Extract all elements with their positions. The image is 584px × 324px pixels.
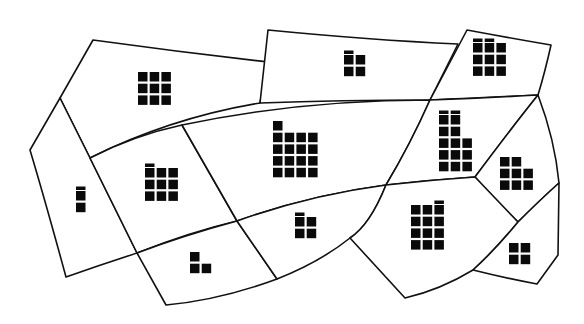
building-block <box>138 84 148 94</box>
building-block <box>295 229 305 239</box>
building-block <box>462 150 472 160</box>
building-block <box>462 162 472 172</box>
building-block <box>296 133 306 143</box>
zone-north-west-block-cluster <box>138 72 171 105</box>
building-block <box>307 229 317 239</box>
building-block <box>496 55 506 64</box>
building-block <box>308 133 318 143</box>
building-block <box>145 168 155 178</box>
building-block <box>434 205 444 215</box>
building-block <box>451 127 461 137</box>
building-block <box>168 168 178 178</box>
block-cap <box>295 213 305 217</box>
block-cap <box>434 201 444 205</box>
building-block <box>512 180 522 190</box>
building-block <box>439 150 449 160</box>
building-block <box>439 138 449 148</box>
building-block <box>512 157 522 167</box>
building-block <box>145 191 155 201</box>
building-block <box>509 255 519 265</box>
building-block <box>344 55 354 65</box>
building-block <box>344 67 354 77</box>
building-block <box>157 180 167 190</box>
block-cap <box>451 111 461 115</box>
building-block <box>161 72 171 82</box>
building-block <box>451 138 461 148</box>
building-block <box>411 217 421 227</box>
building-block <box>500 169 510 179</box>
building-block <box>500 180 510 190</box>
building-block <box>157 191 167 201</box>
zone-diagram <box>0 0 584 324</box>
building-block <box>308 156 318 166</box>
building-block <box>168 180 178 190</box>
building-block <box>439 115 449 125</box>
building-block <box>76 191 86 201</box>
building-block <box>273 133 283 143</box>
building-block <box>150 95 160 105</box>
building-block <box>296 144 306 154</box>
building-block <box>521 255 531 265</box>
building-block <box>451 162 461 172</box>
building-block <box>434 217 444 227</box>
block-cap <box>485 39 495 43</box>
building-block <box>521 243 531 253</box>
building-block <box>523 180 533 190</box>
building-block <box>509 243 519 253</box>
building-block <box>150 84 160 94</box>
block-cap <box>76 187 86 191</box>
building-block <box>473 43 483 53</box>
building-block <box>273 144 283 154</box>
building-block <box>202 264 212 274</box>
building-block <box>150 72 160 82</box>
zone-south-east-block-cluster <box>411 201 444 250</box>
block-cap <box>344 51 354 55</box>
building-block <box>439 162 449 172</box>
building-block <box>462 138 472 148</box>
building-block <box>307 217 317 227</box>
block-cap <box>439 111 449 115</box>
building-block <box>512 169 522 179</box>
building-block <box>523 169 533 179</box>
building-block <box>434 228 444 238</box>
building-block <box>285 133 295 143</box>
building-block <box>273 156 283 166</box>
building-block <box>496 43 506 53</box>
building-block <box>423 228 433 238</box>
building-block <box>434 240 444 250</box>
building-block <box>439 127 449 137</box>
building-block <box>296 156 306 166</box>
building-block <box>485 66 495 76</box>
zone-west-center-block-cluster <box>145 164 178 201</box>
building-block <box>485 55 495 64</box>
block-cap <box>473 39 483 43</box>
building-block <box>285 168 295 178</box>
zone-north-center <box>260 30 458 103</box>
building-block <box>308 144 318 154</box>
building-block <box>308 168 318 178</box>
building-block <box>423 240 433 250</box>
zone-north-east-block-cluster <box>473 39 506 76</box>
building-block <box>161 95 171 105</box>
building-block <box>161 84 171 94</box>
building-block <box>145 180 155 190</box>
building-block <box>411 205 421 215</box>
building-block <box>168 191 178 201</box>
building-block <box>485 43 495 53</box>
building-block <box>190 264 200 274</box>
building-block <box>451 150 461 160</box>
building-block <box>411 228 421 238</box>
building-block <box>190 252 200 262</box>
building-block <box>356 55 366 65</box>
building-block <box>295 217 305 227</box>
building-block <box>473 55 483 64</box>
building-block <box>157 168 167 178</box>
building-block <box>423 205 433 215</box>
building-block <box>423 217 433 227</box>
building-block <box>273 121 283 131</box>
building-block <box>473 66 483 76</box>
building-block <box>273 168 283 178</box>
building-block <box>411 240 421 250</box>
building-block <box>356 67 366 77</box>
building-block <box>285 156 295 166</box>
